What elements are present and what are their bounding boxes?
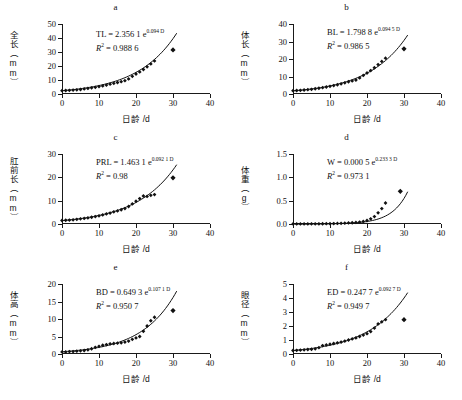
x-tick-label-e-3: 30 bbox=[169, 359, 178, 368]
data-point-e-25 bbox=[153, 315, 157, 319]
data-point-f-13 bbox=[339, 340, 343, 344]
r2-value-a: = 0.988 6 bbox=[106, 43, 138, 53]
data-point-b-1 bbox=[295, 89, 299, 93]
x-tick-label-b-1: 10 bbox=[326, 99, 335, 108]
y-tick-label-b-1: 10 bbox=[279, 72, 288, 81]
panel-letter-b: b bbox=[231, 2, 462, 12]
data-point-c-11 bbox=[101, 213, 105, 217]
data-point-d-10 bbox=[328, 222, 332, 226]
equation-text-b: BL = 1.798 8 e bbox=[327, 27, 378, 37]
data-point-d-9 bbox=[324, 222, 328, 226]
data-point-a-22 bbox=[142, 68, 146, 72]
data-point-b-4 bbox=[306, 88, 310, 92]
y-axis-title-d: 体重（g） bbox=[237, 154, 251, 224]
x-tick-label-d-1: 10 bbox=[326, 229, 335, 238]
x-tick-label-b-0: 0 bbox=[291, 99, 295, 108]
y-tick-label-c-1: 10 bbox=[48, 196, 57, 205]
data-point-a-17 bbox=[123, 79, 127, 83]
y-tick-label-d-1: 0.5 bbox=[276, 196, 287, 205]
r2-value-e: = 0.950 7 bbox=[106, 301, 138, 311]
x-axis-title-b: 日龄 /d bbox=[293, 112, 441, 124]
equation-text-f: ED = 0.247 7 e bbox=[327, 287, 379, 297]
data-point-a-23 bbox=[145, 65, 149, 69]
equation-f: ED = 0.247 7 e0.092 7 DR2 = 0.949 7 bbox=[327, 284, 401, 312]
r2-superscript-e: 2 bbox=[101, 300, 104, 306]
fit-curve-d bbox=[293, 192, 408, 224]
data-point-a-4 bbox=[75, 88, 79, 92]
data-point-d-0 bbox=[291, 222, 295, 226]
data-point-c-14 bbox=[112, 210, 116, 214]
y-tick-label-c-0: 0 bbox=[52, 220, 56, 229]
equation-exponent-f: 0.092 7 D bbox=[379, 286, 401, 292]
y-tick-label-e-4: 20 bbox=[48, 280, 57, 289]
x-tick-label-c-1: 10 bbox=[95, 229, 104, 238]
figure-growth-curves: a全长（mm）日龄 /d01020304050010203040TL = 2.3… bbox=[0, 0, 462, 400]
data-point-c-2 bbox=[68, 218, 72, 222]
data-point-b-7 bbox=[317, 86, 321, 90]
equation-line-b: BL = 1.798 8 e0.094 5 D bbox=[327, 24, 400, 38]
data-point-a-3 bbox=[71, 88, 75, 92]
x-tick-label-c-4: 40 bbox=[206, 229, 215, 238]
data-point-b-8 bbox=[321, 86, 325, 90]
x-tick-label-d-4: 40 bbox=[437, 229, 446, 238]
y-axis-title-e: 体高（mm） bbox=[6, 284, 20, 354]
y-tick-label-f-2: 2 bbox=[283, 322, 287, 331]
data-point-e-4 bbox=[75, 349, 79, 353]
y-tick-label-a-2: 20 bbox=[48, 62, 57, 71]
r2-superscript-c: 2 bbox=[101, 170, 104, 176]
y-tick-label-e-1: 5 bbox=[52, 332, 56, 341]
y-tick-label-f-3: 3 bbox=[283, 308, 287, 317]
data-point-e-2 bbox=[68, 350, 72, 354]
y-tick-label-a-0: 0 bbox=[52, 90, 56, 99]
equation-a: TL = 2.356 1 e0.094 DR2 = 0.988 6 bbox=[96, 26, 164, 54]
x-tick-label-c-3: 30 bbox=[169, 229, 178, 238]
x-tick-label-b-2: 20 bbox=[363, 99, 372, 108]
data-point-c-25 bbox=[153, 193, 157, 197]
y-tick-label-b-2: 20 bbox=[279, 55, 288, 64]
data-point-b-3 bbox=[302, 88, 306, 92]
data-point-e-24 bbox=[149, 319, 153, 323]
data-point-f-0 bbox=[291, 349, 295, 353]
data-point-e-1 bbox=[64, 350, 68, 354]
data-point-d-12 bbox=[336, 222, 340, 226]
y-tick-label-d-2: 1.0 bbox=[276, 173, 287, 182]
equation-line-c: PRL = 1.463 1 e0.092 1 D bbox=[96, 154, 174, 168]
x-tick-label-f-3: 30 bbox=[400, 359, 409, 368]
y-tick-label-f-5: 5 bbox=[283, 280, 287, 289]
equation-line-f: ED = 0.247 7 e0.092 7 D bbox=[327, 284, 401, 298]
data-point-f-14 bbox=[343, 339, 347, 343]
equation-exponent-d: 0.233 3 D bbox=[375, 156, 397, 162]
data-point-a-24 bbox=[149, 62, 153, 66]
r2-value-f: = 0.949 7 bbox=[337, 301, 369, 311]
data-point-c-1 bbox=[64, 218, 68, 222]
r2-value-c: = 0.98 bbox=[106, 171, 128, 181]
panel-letter-f: f bbox=[231, 262, 462, 272]
panel-letter-e: e bbox=[0, 262, 231, 272]
data-point-a-0 bbox=[60, 89, 64, 93]
equation-e: BD = 0.649 3 e0.107 1 DR2 = 0.950 7 bbox=[96, 284, 170, 312]
data-point-c-8 bbox=[90, 215, 94, 219]
data-point-c-5 bbox=[79, 217, 83, 221]
data-point-d-18 bbox=[358, 220, 362, 224]
r2-line-b: R2 = 0.986 5 bbox=[327, 38, 400, 52]
y-tick-label-f-4: 4 bbox=[283, 294, 287, 303]
x-axis-title-f: 日龄 /d bbox=[293, 372, 441, 384]
data-point-e-19 bbox=[130, 337, 134, 341]
equation-line-e: BD = 0.649 3 e0.107 1 D bbox=[96, 284, 170, 298]
equation-c: PRL = 1.463 1 e0.092 1 DR2 = 0.98 bbox=[96, 154, 174, 182]
data-point-d-22 bbox=[373, 215, 377, 219]
data-point-e-22 bbox=[142, 329, 146, 333]
data-point-c-0 bbox=[60, 219, 64, 223]
x-tick-label-a-2: 20 bbox=[132, 99, 141, 108]
y-tick-label-d-0: 0.0 bbox=[276, 220, 287, 229]
x-tick-label-f-1: 10 bbox=[326, 359, 335, 368]
y-tick-label-e-2: 10 bbox=[48, 315, 57, 324]
x-tick-label-b-4: 40 bbox=[437, 99, 446, 108]
x-axis-title-a: 日龄 /d bbox=[62, 112, 210, 124]
data-point-c-3 bbox=[71, 218, 75, 222]
data-point-c-20 bbox=[134, 199, 138, 203]
equation-text-d: W = 0.000 5 e bbox=[327, 157, 375, 167]
data-point-e-21 bbox=[138, 335, 142, 339]
data-point-b-10 bbox=[328, 84, 332, 88]
y-tick-label-b-3: 30 bbox=[279, 37, 288, 46]
